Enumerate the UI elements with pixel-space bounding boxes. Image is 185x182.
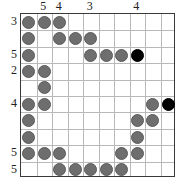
puzzle-board-container: 5434 352455 — [0, 0, 185, 182]
stone-gray-r1c2[interactable] — [38, 16, 51, 29]
stone-gray-r2c3[interactable] — [53, 32, 66, 45]
stone-gray-r3c7[interactable] — [115, 49, 128, 62]
stone-black-r6c10[interactable] — [162, 98, 175, 111]
stone-gray-r9c8[interactable] — [131, 147, 144, 160]
column-header-8: 4 — [129, 0, 145, 13]
stone-gray-r3c5[interactable] — [84, 49, 97, 62]
stone-gray-r10c7[interactable] — [115, 163, 128, 176]
column-header-7 — [113, 0, 129, 13]
row-header-10: 5 — [0, 161, 17, 177]
column-header-5: 3 — [82, 0, 98, 13]
puzzle-grid[interactable] — [20, 13, 175, 177]
row-header-strip: 352455 — [0, 13, 20, 177]
row-header-6: 4 — [0, 95, 17, 111]
stone-gray-r7c1[interactable] — [22, 114, 35, 127]
stone-gray-r9c7[interactable] — [115, 147, 128, 160]
stone-gray-r9c1[interactable] — [22, 147, 35, 160]
row-header-8 — [0, 128, 17, 144]
row-header-1: 3 — [0, 13, 17, 29]
column-header-3: 4 — [51, 0, 67, 13]
stone-gray-r8c1[interactable] — [22, 131, 35, 144]
stone-gray-r10c5[interactable] — [84, 163, 97, 176]
row-header-9: 5 — [0, 144, 17, 160]
row-header-7 — [0, 111, 17, 127]
stone-gray-r5c2[interactable] — [38, 81, 51, 94]
stone-gray-r4c1[interactable] — [22, 65, 35, 78]
stone-gray-r10c6[interactable] — [100, 163, 113, 176]
column-header-10 — [160, 0, 176, 13]
column-header-9 — [144, 0, 160, 13]
row-header-2 — [0, 29, 17, 45]
stone-gray-r2c5[interactable] — [84, 32, 97, 45]
column-header-4 — [67, 0, 83, 13]
stone-gray-r10c3[interactable] — [53, 163, 66, 176]
row-header-4: 2 — [0, 62, 17, 78]
stone-gray-r1c3[interactable] — [53, 16, 66, 29]
stone-gray-r4c2[interactable] — [38, 65, 51, 78]
column-header-1 — [20, 0, 36, 13]
stone-gray-r6c1[interactable] — [22, 98, 35, 111]
column-header-strip: 5434 — [20, 0, 175, 13]
column-header-2: 5 — [36, 0, 52, 13]
row-header-3: 5 — [0, 46, 17, 62]
stone-gray-r2c4[interactable] — [69, 32, 82, 45]
stone-layer — [21, 14, 174, 176]
stone-gray-r7c8[interactable] — [131, 114, 144, 127]
stone-gray-r9c2[interactable] — [38, 147, 51, 160]
stone-gray-r10c4[interactable] — [69, 163, 82, 176]
stone-black-r3c8[interactable] — [131, 49, 144, 62]
column-header-6 — [98, 0, 114, 13]
stone-gray-r3c1[interactable] — [22, 49, 35, 62]
stone-gray-r6c2[interactable] — [38, 98, 51, 111]
stone-gray-r9c3[interactable] — [53, 147, 66, 160]
stone-gray-r1c1[interactable] — [22, 16, 35, 29]
row-header-5 — [0, 79, 17, 95]
stone-gray-r2c1[interactable] — [22, 32, 35, 45]
stone-gray-r3c6[interactable] — [100, 49, 113, 62]
stone-gray-r7c9[interactable] — [146, 114, 159, 127]
stone-gray-r6c9[interactable] — [146, 98, 159, 111]
stone-gray-r8c8[interactable] — [131, 131, 144, 144]
